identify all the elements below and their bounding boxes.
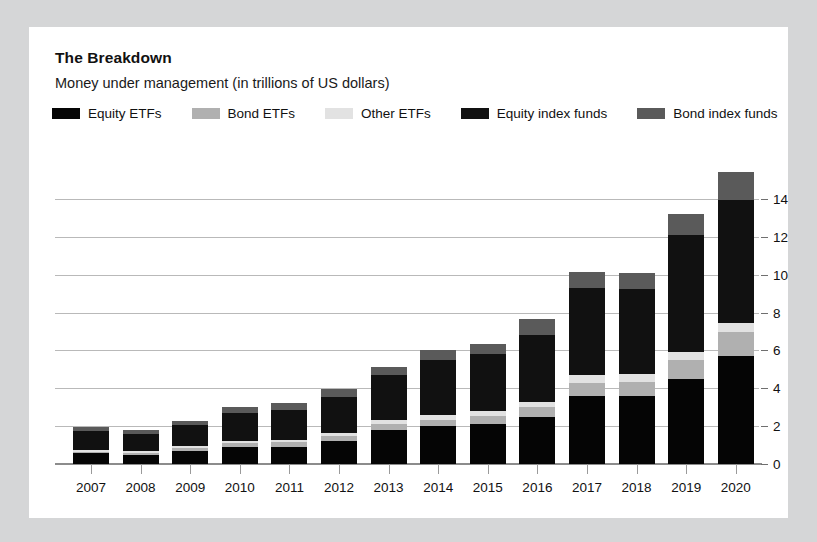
y-axis: 02468101214 (761, 167, 811, 467)
bar-group-2014[interactable] (420, 350, 456, 464)
bar-segment-equity-etfs[interactable] (668, 379, 704, 464)
x-axis-tick-label: 2014 (423, 480, 453, 495)
bar-segment-bond-etfs[interactable] (569, 383, 605, 396)
bar-series-container (55, 167, 762, 464)
bar-segment-equity-etfs[interactable] (172, 451, 208, 464)
y-axis-tick (761, 350, 768, 351)
bar-group-2011[interactable] (271, 403, 307, 464)
bar-segment-bond-index-funds[interactable] (321, 389, 357, 397)
bar-segment-equity-index-funds[interactable] (470, 354, 506, 411)
bar-segment-equity-index-funds[interactable] (668, 235, 704, 352)
bar-group-2012[interactable] (321, 389, 357, 464)
bar-segment-equity-etfs[interactable] (718, 356, 754, 464)
bar-segment-bond-index-funds[interactable] (271, 403, 307, 410)
bar-group-2008[interactable] (123, 430, 159, 464)
bar-segment-equity-etfs[interactable] (519, 417, 555, 464)
bar-segment-bond-index-funds[interactable] (619, 273, 655, 289)
bar-segment-equity-etfs[interactable] (123, 455, 159, 464)
bar-segment-equity-index-funds[interactable] (321, 397, 357, 433)
bar-segment-equity-etfs[interactable] (73, 453, 109, 464)
bar-segment-bond-etfs[interactable] (619, 382, 655, 396)
x-axis-tick-label: 2018 (622, 480, 652, 495)
legend-item-label: Equity ETFs (88, 106, 162, 121)
bar-segment-equity-index-funds[interactable] (569, 288, 605, 375)
x-axis-tick (240, 464, 241, 474)
bar-segment-equity-index-funds[interactable] (271, 410, 307, 440)
x-axis-tick-label: 2007 (76, 480, 106, 495)
x-axis-tick (289, 464, 290, 474)
bar-segment-bond-index-funds[interactable] (569, 272, 605, 288)
y-axis-tick (761, 388, 768, 389)
bar-segment-equity-index-funds[interactable] (619, 289, 655, 374)
bar-segment-equity-etfs[interactable] (222, 447, 258, 464)
bar-segment-equity-index-funds[interactable] (718, 200, 754, 323)
bar-segment-equity-index-funds[interactable] (519, 335, 555, 401)
bar-segment-other-etfs[interactable] (668, 352, 704, 360)
bar-group-2019[interactable] (668, 214, 704, 464)
bar-segment-bond-etfs[interactable] (668, 360, 704, 379)
x-axis-tick-label: 2017 (572, 480, 602, 495)
bar-segment-equity-etfs[interactable] (569, 396, 605, 464)
bar-segment-other-etfs[interactable] (619, 374, 655, 382)
bar-segment-bond-index-funds[interactable] (718, 172, 754, 200)
legend-swatch-icon (461, 108, 489, 119)
chart-legend: Equity ETFsBond ETFsOther ETFsEquity ind… (52, 104, 768, 122)
x-axis-tick (190, 464, 191, 474)
bar-segment-bond-index-funds[interactable] (371, 367, 407, 376)
bar-segment-equity-index-funds[interactable] (123, 434, 159, 451)
x-axis-tick (686, 464, 687, 474)
bar-group-2009[interactable] (172, 421, 208, 465)
legend-item-bond-etfs[interactable]: Bond ETFs (192, 106, 296, 121)
legend-item-label: Equity index funds (497, 106, 607, 121)
bar-segment-equity-index-funds[interactable] (222, 413, 258, 441)
bar-segment-equity-index-funds[interactable] (172, 425, 208, 446)
chart-card: The Breakdown Money under management (in… (29, 27, 788, 518)
legend-item-equity-index-funds[interactable]: Equity index funds (461, 106, 607, 121)
bar-segment-bond-etfs[interactable] (519, 407, 555, 416)
legend-swatch-icon (325, 108, 353, 119)
bar-group-2015[interactable] (470, 344, 506, 464)
bar-segment-equity-index-funds[interactable] (371, 375, 407, 420)
bar-segment-equity-etfs[interactable] (619, 396, 655, 464)
bar-segment-equity-index-funds[interactable] (420, 360, 456, 415)
y-axis-tick-label: 12 (773, 229, 788, 244)
legend-item-equity-etfs[interactable]: Equity ETFs (52, 106, 162, 121)
bar-segment-other-etfs[interactable] (718, 323, 754, 332)
bar-group-2016[interactable] (519, 319, 555, 464)
bar-segment-equity-etfs[interactable] (470, 424, 506, 464)
bar-group-2018[interactable] (619, 273, 655, 464)
y-axis-tick (761, 426, 768, 427)
y-axis-tick (761, 199, 768, 200)
bar-segment-equity-etfs[interactable] (420, 426, 456, 464)
y-axis-tick (761, 313, 768, 314)
bar-segment-bond-etfs[interactable] (470, 416, 506, 425)
bar-segment-bond-etfs[interactable] (420, 420, 456, 427)
bar-group-2007[interactable] (73, 427, 109, 464)
bar-segment-equity-etfs[interactable] (271, 447, 307, 464)
legend-item-label: Bond index funds (673, 106, 777, 121)
y-axis-tick-label: 8 (773, 305, 781, 320)
bar-group-2010[interactable] (222, 407, 258, 464)
x-axis-tick (91, 464, 92, 474)
bar-segment-bond-index-funds[interactable] (420, 350, 456, 359)
bar-segment-other-etfs[interactable] (569, 375, 605, 383)
bar-segment-bond-index-funds[interactable] (668, 214, 704, 235)
x-axis-tick-label: 2019 (671, 480, 701, 495)
legend-item-other-etfs[interactable]: Other ETFs (325, 106, 431, 121)
bar-group-2020[interactable] (718, 172, 754, 464)
bar-segment-equity-etfs[interactable] (321, 441, 357, 464)
legend-item-bond-index-funds[interactable]: Bond index funds (637, 106, 777, 121)
bar-group-2013[interactable] (371, 367, 407, 464)
y-axis-tick-label: 14 (773, 191, 788, 206)
bar-segment-bond-etfs[interactable] (718, 332, 754, 357)
x-axis-tick (537, 464, 538, 474)
x-axis-tick-label: 2020 (721, 480, 751, 495)
bar-segment-bond-index-funds[interactable] (470, 344, 506, 354)
x-axis-tick-label: 2016 (522, 480, 552, 495)
bar-segment-equity-index-funds[interactable] (73, 431, 109, 450)
x-axis-tick-label: 2010 (225, 480, 255, 495)
x-axis-tick-label: 2015 (473, 480, 503, 495)
bar-segment-bond-index-funds[interactable] (519, 319, 555, 335)
bar-segment-equity-etfs[interactable] (371, 430, 407, 464)
bar-group-2017[interactable] (569, 272, 605, 464)
